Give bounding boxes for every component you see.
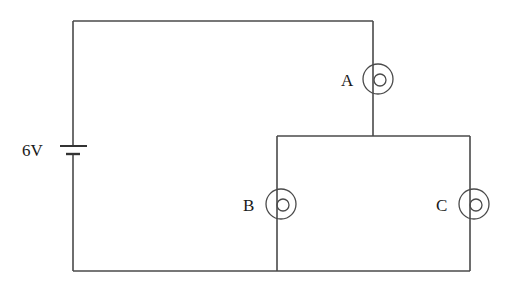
- bulb-b-label: B: [243, 197, 254, 214]
- bulb-c-icon: [459, 189, 489, 219]
- bulb-c-label: C: [436, 197, 447, 214]
- battery-icon: [60, 146, 87, 154]
- battery-label: 6V: [22, 142, 43, 159]
- bulb-b-icon: [266, 189, 296, 219]
- bulb-a-icon: [363, 64, 393, 94]
- circuit-diagram: [0, 0, 517, 287]
- wires: [73, 21, 470, 271]
- bulb-a-label: A: [341, 72, 353, 89]
